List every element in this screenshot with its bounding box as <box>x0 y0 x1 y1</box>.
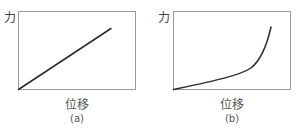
plot-frame-b <box>174 12 291 90</box>
panel-caption-b: (b) <box>217 113 247 124</box>
x-axis-label-displacement: 位移 <box>47 95 107 112</box>
linear-curve <box>19 29 112 90</box>
panel-b-nonlinear: 力 位移 (b) <box>149 0 298 133</box>
panel-caption-a: (a) <box>62 113 92 124</box>
panel-a-linear: 力 位移 (a) <box>0 0 149 133</box>
x-axis-label-displacement: 位移 <box>202 95 262 112</box>
nonlinear-curve <box>174 27 272 90</box>
